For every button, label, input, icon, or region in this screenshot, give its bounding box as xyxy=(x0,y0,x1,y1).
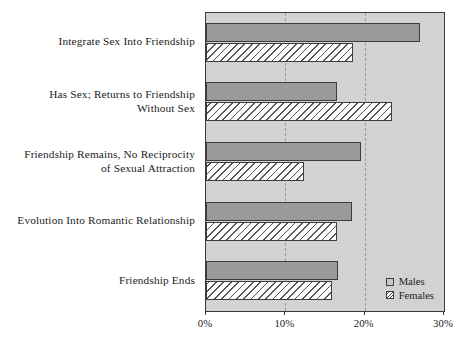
legend-swatch-males-icon xyxy=(386,278,394,286)
bar-males xyxy=(206,202,352,221)
bar-females xyxy=(206,222,337,241)
bar-males xyxy=(206,23,420,42)
x-tick-label: 20% xyxy=(354,317,374,329)
chart-legend: MalesFemales xyxy=(382,273,438,305)
category-label-line: Without Sex xyxy=(0,101,195,116)
x-tick-label: 30% xyxy=(433,317,453,329)
bar-females xyxy=(206,102,392,121)
category-label: Integrate Sex Into Friendship xyxy=(0,34,195,49)
bar-chart: Integrate Sex Into FriendshipHas Sex; Re… xyxy=(0,0,461,355)
bar-group xyxy=(206,23,444,63)
x-tick-label: 0% xyxy=(198,317,212,329)
category-label: Friendship Remains, No Reciprocityof Sex… xyxy=(0,147,195,176)
category-label: Friendship Ends xyxy=(0,273,195,288)
plot-area: MalesFemales xyxy=(205,12,445,312)
bar-males xyxy=(206,142,361,161)
bar-males xyxy=(206,261,338,280)
x-tick-label: 10% xyxy=(274,317,294,329)
legend-item-females[interactable]: Females xyxy=(386,289,434,303)
category-label-line: Has Sex; Returns to Friendship xyxy=(0,87,195,102)
bar-group xyxy=(206,82,444,122)
bar-group xyxy=(206,202,444,242)
category-label-line: Friendship Ends xyxy=(0,273,195,288)
category-label-line: Evolution Into Romantic Relationship xyxy=(0,213,195,228)
category-axis-labels: Integrate Sex Into FriendshipHas Sex; Re… xyxy=(0,12,200,310)
bar-group xyxy=(206,142,444,182)
plot-inner xyxy=(206,13,444,311)
x-axis: 0%10%20%30% xyxy=(205,311,444,341)
x-tick-mark xyxy=(284,311,285,315)
bar-females xyxy=(206,43,353,62)
category-label-line: Integrate Sex Into Friendship xyxy=(0,34,195,49)
category-label-line: Friendship Remains, No Reciprocity xyxy=(0,147,195,162)
legend-swatch-females-icon xyxy=(386,291,394,299)
bar-males xyxy=(206,82,337,101)
category-label: Has Sex; Returns to FriendshipWithout Se… xyxy=(0,87,195,116)
legend-item-males[interactable]: Males xyxy=(386,275,434,289)
legend-label: Males xyxy=(399,275,425,289)
bar-females xyxy=(206,162,304,181)
x-tick-mark xyxy=(443,311,444,315)
bar-females xyxy=(206,281,332,300)
x-tick-mark xyxy=(364,311,365,315)
legend-label: Females xyxy=(399,289,434,303)
category-label: Evolution Into Romantic Relationship xyxy=(0,213,195,228)
category-label-line: of Sexual Attraction xyxy=(0,161,195,176)
x-tick-mark xyxy=(205,311,206,315)
